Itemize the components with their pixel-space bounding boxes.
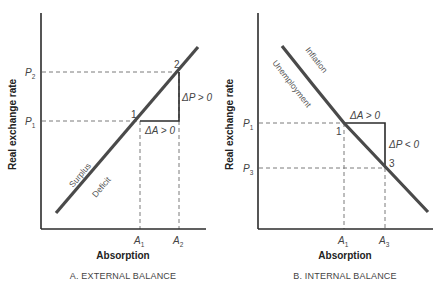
inflation-label: Inflation [303, 45, 329, 75]
panel-caption: B. INTERNAL BALANCE [293, 271, 397, 281]
delta-a-label: ΔA > 0 [144, 125, 175, 136]
x-tick-a3: A3 [378, 235, 390, 248]
delta-p-label: ΔP < 0 [388, 139, 419, 150]
y-axis-title: Real exchange rate [224, 78, 235, 170]
panel-external-balance: P2 P1 A1 A2 1 2 ΔA > 0 ΔP > 0 Surplus De… [7, 13, 212, 281]
delta-triangle [140, 72, 179, 121]
y-axis-title: Real exchange rate [7, 78, 18, 170]
point-2-label: 2 [174, 59, 180, 70]
x-axis-title: Absorption [96, 250, 149, 261]
y-tick-p3: P3 [243, 163, 254, 176]
delta-a-label: ΔA > 0 [349, 110, 380, 121]
y-tick-p2: P2 [25, 67, 36, 80]
y-tick-p1: P1 [25, 116, 36, 129]
internal-balance-curve [282, 46, 428, 212]
point-1-label: 1 [336, 126, 342, 137]
point-3-label: 3 [389, 158, 395, 169]
panel-internal-balance: P1 P3 A1 A3 1 3 ΔA > 0 ΔP < 0 Inflation … [224, 13, 433, 281]
y-tick-p1: P1 [243, 118, 254, 131]
deficit-label: Deficit [90, 174, 113, 199]
panel-caption: A. EXTERNAL BALANCE [70, 271, 177, 281]
x-axis-title: Absorption [318, 250, 371, 261]
x-tick-a1: A1 [133, 235, 145, 248]
balance-diagrams: P2 P1 A1 A2 1 2 ΔA > 0 ΔP > 0 Surplus De… [0, 0, 442, 291]
delta-p-label: ΔP > 0 [181, 92, 212, 103]
point-1-label: 1 [131, 109, 137, 120]
x-tick-a2: A2 [172, 235, 184, 248]
x-tick-a1: A1 [337, 235, 349, 248]
unemployment-label: Unemployment [270, 58, 313, 110]
